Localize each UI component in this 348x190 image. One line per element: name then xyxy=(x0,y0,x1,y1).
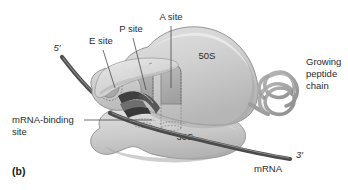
label-five-prime: 5′ xyxy=(53,42,61,53)
label-mrna-binding-site-line2: site xyxy=(12,126,27,137)
label-p-site: P site xyxy=(119,23,143,34)
label-a-site: A site xyxy=(159,11,182,22)
label-growing-peptide-line2: peptide xyxy=(306,68,337,79)
label-50s: 50S xyxy=(199,50,216,61)
figure-panel-b: 30S 50S xyxy=(0,0,348,190)
label-e-site: E site xyxy=(89,35,113,46)
peptide-knot xyxy=(259,72,297,114)
label-mrna-binding-site-line1: mRNA-binding xyxy=(12,114,74,125)
label-mrna: mRNA xyxy=(254,163,283,174)
label-growing-peptide-line1: Growing xyxy=(306,56,341,67)
ribosome-diagram: 30S 50S xyxy=(0,0,348,190)
label-growing-peptide-line3: chain xyxy=(306,80,329,91)
panel-letter-b: (b) xyxy=(12,165,25,177)
label-three-prime: 3′ xyxy=(296,149,304,160)
